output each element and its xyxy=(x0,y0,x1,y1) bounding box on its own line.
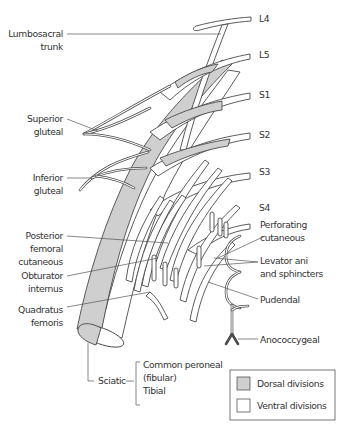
root-label-s1: S1 xyxy=(259,89,270,100)
sciatic-labels: Sciatic Common peroneal (fibular) Tibial xyxy=(98,359,222,396)
legend: Dorsal divisions Ventral divisions xyxy=(230,370,335,420)
label-obturator-internus-1: Obturator xyxy=(21,270,63,281)
label-perforating-cutaneous-1: Perforating xyxy=(260,219,307,230)
label-quadratus-femoris-2: femoris xyxy=(31,317,64,328)
root-label-s4: S4 xyxy=(259,202,270,213)
root-label-s2: S2 xyxy=(259,129,270,140)
label-perforating-cutaneous-2: cutaneous xyxy=(260,232,305,243)
legend-label-dorsal: Dorsal divisions xyxy=(257,378,324,389)
sacral-plexus-diagram: L4 L5 S1 S2 S3 S4 Lumbosacral trunk Supe… xyxy=(0,0,339,431)
root-labels: L4 L5 S1 S2 S3 S4 xyxy=(259,13,270,213)
label-obturator-internus-2: internus xyxy=(28,283,63,294)
label-pudendal: Pudendal xyxy=(260,294,300,305)
legend-label-ventral: Ventral divisions xyxy=(257,400,327,411)
label-posterior-femoral-cutaneous-2: femoral xyxy=(30,243,63,254)
pudendal-column xyxy=(226,236,248,344)
label-levator-ani-1: Levator ani xyxy=(260,255,308,266)
label-common-peroneal: Common peroneal xyxy=(143,359,222,370)
label-superior-gluteal-2: gluteal xyxy=(34,126,63,137)
label-superior-gluteal-1: Superior xyxy=(27,113,64,124)
root-label-s3: S3 xyxy=(259,166,270,177)
label-lumbosacral-trunk-1: Lumbosacral xyxy=(8,28,63,39)
label-lumbosacral-trunk-2: trunk xyxy=(40,41,64,52)
label-fibular: (fibular) xyxy=(143,372,176,383)
legend-swatch-dorsal xyxy=(237,377,250,390)
label-quadratus-femoris-1: Quadratus xyxy=(18,304,64,315)
label-posterior-femoral-cutaneous-3: cutaneous xyxy=(18,256,63,267)
label-tibial: Tibial xyxy=(142,385,165,396)
label-sciatic: Sciatic xyxy=(98,375,126,386)
root-label-l5: L5 xyxy=(259,49,270,60)
label-posterior-femoral-cutaneous-1: Posterior xyxy=(26,230,64,241)
right-labels: Perforating cutaneous Levator ani and sp… xyxy=(260,219,324,345)
label-levator-ani-2: and sphincters xyxy=(260,268,324,279)
label-anococcygeal: Anococcygeal xyxy=(260,334,319,345)
label-inferior-gluteal-1: Inferior xyxy=(33,172,64,183)
left-labels: Lumbosacral trunk Superior gluteal Infer… xyxy=(8,28,64,328)
root-label-l4: L4 xyxy=(259,13,270,24)
label-inferior-gluteal-2: gluteal xyxy=(34,185,63,196)
legend-swatch-ventral xyxy=(237,399,250,412)
